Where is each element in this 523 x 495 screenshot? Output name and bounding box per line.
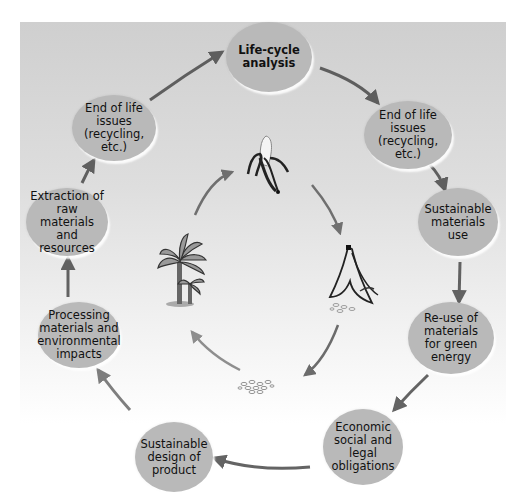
node-label: Economic social and legal obligations xyxy=(331,421,394,473)
arrow-left-eol-to-lca xyxy=(150,52,222,100)
node-end-of-life-right: End of life issues (recycling, etc.) xyxy=(364,101,452,169)
node-extraction-raw-materials: Extraction of raw materials and resource… xyxy=(26,188,108,256)
node-label: End of life issues (recycling, etc.) xyxy=(76,102,152,154)
arrow-materials-to-reuse xyxy=(459,262,460,302)
arrow-economic-to-design xyxy=(214,458,310,468)
node-processing-materials: Processing materials and environmental i… xyxy=(38,302,120,368)
node-label: Processing materials and environmental i… xyxy=(37,309,120,361)
banana-peel-icon xyxy=(330,245,378,313)
node-sustainable-design: Sustainable design of product xyxy=(135,422,213,492)
arrow-tree-to-banana xyxy=(195,172,232,215)
peeled-banana-icon xyxy=(248,136,288,194)
compost-icon xyxy=(238,380,274,393)
arrow-right-eol-to-materials xyxy=(430,165,445,190)
arrow-peel-to-compost xyxy=(305,325,338,375)
arrow-design-to-processing xyxy=(98,370,130,410)
banana-tree-icon xyxy=(158,234,206,307)
node-life-cycle-analysis: Life-cycle analysis xyxy=(226,22,312,92)
node-label: Life-cycle analysis xyxy=(238,44,300,70)
arrow-reuse-to-economic xyxy=(394,375,428,410)
arrow-extraction-to-left-eol xyxy=(82,160,94,183)
node-label: Sustainable design of product xyxy=(140,438,207,477)
arrow-banana-to-peel xyxy=(312,185,340,233)
arrow-lca-to-right-eol xyxy=(320,68,378,103)
node-sustainable-materials-use: Sustainable materials use xyxy=(418,188,498,256)
node-label: Re-use of materials for green energy xyxy=(424,312,478,364)
node-reuse-green-energy: Re-use of materials for green energy xyxy=(408,302,494,374)
node-label: End of life issues (recycling, etc.) xyxy=(368,109,448,161)
arrow-compost-to-tree xyxy=(192,332,240,370)
node-economic-social-legal: Economic social and legal obligations xyxy=(323,409,403,485)
node-label: Extraction of raw materials and resource… xyxy=(30,190,104,255)
node-label: Sustainable materials use xyxy=(424,203,491,242)
node-end-of-life-left: End of life issues (recycling, etc.) xyxy=(72,95,156,161)
